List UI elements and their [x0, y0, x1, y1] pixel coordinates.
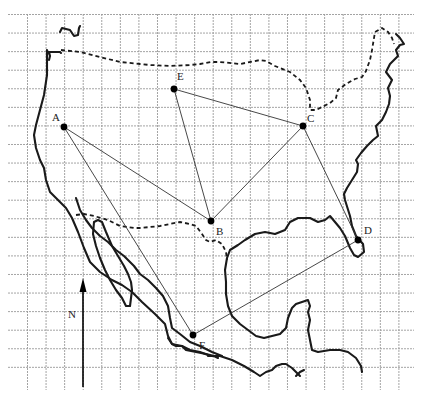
point-label-b: B	[216, 225, 223, 237]
point-b	[208, 218, 215, 225]
route-D-F	[193, 240, 358, 335]
point-f	[190, 332, 197, 339]
route-E-C	[174, 89, 303, 126]
mexico-coast	[76, 198, 222, 356]
grid	[8, 14, 414, 390]
point-label-d: D	[364, 224, 372, 236]
point-c	[300, 123, 307, 130]
point-label-c: C	[307, 112, 314, 124]
us-canada-border	[61, 28, 394, 110]
point-a	[61, 124, 68, 131]
point-label-f: F	[199, 339, 205, 351]
gulf-west-shore	[225, 270, 362, 372]
route-C-B	[211, 126, 303, 221]
point-d	[355, 237, 362, 244]
gulf-coastline	[225, 34, 404, 270]
points: ABCDEF	[52, 70, 372, 351]
point-label-e: E	[177, 70, 184, 82]
north-label: N	[68, 308, 76, 320]
point-label-a: A	[52, 111, 60, 123]
north-arrow-head-icon	[80, 278, 87, 292]
point-e	[171, 86, 178, 93]
central-america-coast	[208, 356, 300, 376]
map-diagram: N ABCDEF	[0, 0, 422, 401]
